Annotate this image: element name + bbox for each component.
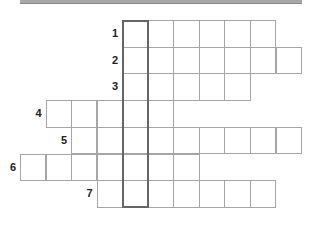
grid-cell[interactable] [250,180,276,208]
grid-cell[interactable] [122,73,148,101]
cell-input-row1-1[interactable] [123,21,147,47]
grid-cell[interactable] [173,154,199,182]
cell-input-row3-1[interactable] [123,74,147,100]
cell-input-row1-4[interactable] [200,21,224,47]
cell-input-row4-4[interactable] [123,101,147,127]
cell-input-row7-1[interactable] [98,181,122,207]
grid-cell[interactable] [122,154,148,182]
grid-cell[interactable] [199,47,225,75]
cell-input-row3-3[interactable] [174,74,198,100]
grid-cell[interactable] [224,47,250,75]
cell-input-row2-7[interactable] [277,48,301,74]
grid-cell[interactable] [250,20,276,48]
grid-cell[interactable] [122,180,148,208]
cell-input-row7-2[interactable] [123,181,147,207]
cell-input-row6-2[interactable] [47,155,71,181]
cell-input-row5-6[interactable] [200,128,224,154]
grid-cell[interactable] [148,73,174,101]
cell-input-row1-5[interactable] [225,21,249,47]
grid-cell[interactable] [224,20,250,48]
cell-input-row2-5[interactable] [225,48,249,74]
cell-input-row3-4[interactable] [200,74,224,100]
cell-input-row4-3[interactable] [98,101,122,127]
cell-input-row6-1[interactable] [21,155,45,181]
cell-input-row1-3[interactable] [174,21,198,47]
clue-number-1: 1 [106,27,118,39]
cell-input-row7-4[interactable] [174,181,198,207]
cell-input-row5-8[interactable] [251,128,275,154]
cell-input-row5-4[interactable] [149,128,173,154]
clue-number-4: 4 [30,107,42,119]
clue-number-2: 2 [106,54,118,66]
cell-input-row2-1[interactable] [123,48,147,74]
cell-input-row2-2[interactable] [149,48,173,74]
cell-input-row4-2[interactable] [72,101,96,127]
grid-cell[interactable] [148,180,174,208]
grid-cell[interactable] [173,20,199,48]
cell-input-row7-7[interactable] [251,181,275,207]
grid-cell[interactable] [199,20,225,48]
cell-input-row2-4[interactable] [200,48,224,74]
grid-cell[interactable] [199,180,225,208]
grid-cell[interactable] [148,154,174,182]
grid-cell[interactable] [250,47,276,75]
cell-input-row6-3[interactable] [72,155,96,181]
grid-cell[interactable] [122,20,148,48]
grid-cell[interactable] [224,73,250,101]
cell-input-row6-4[interactable] [98,155,122,181]
clue-number-5: 5 [55,134,67,146]
grid-cell[interactable] [276,47,302,75]
grid-cell[interactable] [97,154,123,182]
grid-cell[interactable] [97,180,123,208]
grid-cell[interactable] [173,127,199,155]
cell-input-row5-2[interactable] [98,128,122,154]
crossword-grid: 1234567 [0,0,318,225]
grid-cell[interactable] [173,47,199,75]
cell-input-row2-6[interactable] [251,48,275,74]
grid-cell[interactable] [122,127,148,155]
grid-cell[interactable] [97,127,123,155]
clue-number-6: 6 [4,161,16,173]
grid-cell[interactable] [71,100,97,128]
grid-cell[interactable] [148,20,174,48]
grid-cell[interactable] [46,154,72,182]
cell-input-row3-2[interactable] [149,74,173,100]
cell-input-row7-5[interactable] [200,181,224,207]
grid-cell[interactable] [199,73,225,101]
cell-input-row4-5[interactable] [149,101,173,127]
cell-input-row1-6[interactable] [251,21,275,47]
grid-cell[interactable] [173,73,199,101]
cell-input-row5-5[interactable] [174,128,198,154]
cell-input-row2-3[interactable] [174,48,198,74]
grid-cell[interactable] [148,127,174,155]
grid-cell[interactable] [97,100,123,128]
cell-input-row5-7[interactable] [225,128,249,154]
grid-cell[interactable] [71,154,97,182]
cell-input-row6-7[interactable] [174,155,198,181]
grid-cell[interactable] [20,154,46,182]
cell-input-row6-6[interactable] [149,155,173,181]
cell-input-row7-3[interactable] [149,181,173,207]
cell-input-row5-1[interactable] [72,128,96,154]
clue-number-7: 7 [81,187,93,199]
cell-input-row7-6[interactable] [225,181,249,207]
cell-input-row1-2[interactable] [149,21,173,47]
grid-cell[interactable] [250,127,276,155]
grid-cell[interactable] [173,180,199,208]
grid-cell[interactable] [224,180,250,208]
grid-cell[interactable] [122,100,148,128]
grid-cell[interactable] [199,127,225,155]
cell-input-row5-3[interactable] [123,128,147,154]
grid-cell[interactable] [224,127,250,155]
cell-input-row5-9[interactable] [277,128,301,154]
cell-input-row6-5[interactable] [123,155,147,181]
grid-cell[interactable] [148,100,174,128]
cell-input-row4-1[interactable] [47,101,71,127]
grid-cell[interactable] [71,127,97,155]
clue-number-3: 3 [106,80,118,92]
grid-cell[interactable] [148,47,174,75]
cell-input-row3-5[interactable] [225,74,249,100]
grid-cell[interactable] [122,47,148,75]
grid-cell[interactable] [46,100,72,128]
grid-cell[interactable] [276,127,302,155]
